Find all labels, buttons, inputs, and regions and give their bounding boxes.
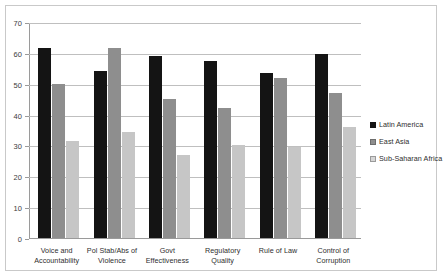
y-tick-label: 40 [13,111,22,120]
bar[interactable] [204,61,217,238]
bar[interactable] [163,99,176,238]
y-tick-label: 70 [13,19,22,28]
y-tick-label: 0 [18,235,22,244]
legend-item[interactable]: East Asia [370,137,442,146]
bar[interactable] [177,155,190,238]
x-axis-label: Govt Effectiveness [138,246,197,265]
bar[interactable] [343,127,356,238]
bar[interactable] [329,93,342,238]
y-tick-label: 20 [13,173,22,182]
bar[interactable] [288,147,301,238]
x-axis-label: Rule of Law [248,246,307,256]
y-tick-mark [25,116,29,117]
plot-area: 010203040506070 [29,23,361,239]
y-tick-mark [25,23,29,24]
bar[interactable] [315,54,328,238]
bar-group [315,22,356,238]
bar-group [260,22,301,238]
legend-swatch-icon [370,156,376,162]
legend-swatch-icon [370,139,376,145]
y-tick-mark [25,85,29,86]
legend-swatch-icon [370,122,376,128]
y-tick-mark [25,54,29,55]
x-axis-label: Control of Corruption [304,246,363,265]
bar-group [38,22,79,238]
y-tick-mark [25,239,29,240]
y-tick-label: 10 [13,204,22,213]
x-axis-label: Pol Stab/Abs of Violence [82,246,141,265]
bar[interactable] [94,71,107,238]
bar[interactable] [66,141,79,238]
x-axis-line [29,238,361,239]
bar[interactable] [218,108,231,238]
chart-legend: Latin AmericaEast AsiaSub-Saharan Africa [370,120,442,171]
bar[interactable] [108,48,121,238]
legend-label: Sub-Saharan Africa [379,154,442,163]
y-tick-label: 60 [13,49,22,58]
y-tick-label: 30 [13,142,22,151]
bar[interactable] [122,132,135,238]
bar[interactable] [149,56,162,238]
x-axis-label: Regulatory Quality [193,246,252,265]
bar[interactable] [232,145,245,238]
bar-group [149,22,190,238]
y-tick-label: 50 [13,80,22,89]
chart-frame: 010203040506070 Voice and Accountability… [5,5,437,271]
x-axis-label: Voice and Accountability [27,246,86,265]
bar[interactable] [38,48,51,238]
y-tick-mark [25,208,29,209]
legend-item[interactable]: Sub-Saharan Africa [370,154,442,163]
bar-group [94,22,135,238]
bar[interactable] [274,78,287,238]
y-tick-mark [25,146,29,147]
y-axis-line [29,23,30,239]
bar[interactable] [52,84,65,238]
bar[interactable] [260,73,273,238]
bar-group [204,22,245,238]
legend-item[interactable]: Latin America [370,120,442,129]
legend-label: East Asia [379,137,409,146]
legend-label: Latin America [379,120,423,129]
y-tick-mark [25,177,29,178]
